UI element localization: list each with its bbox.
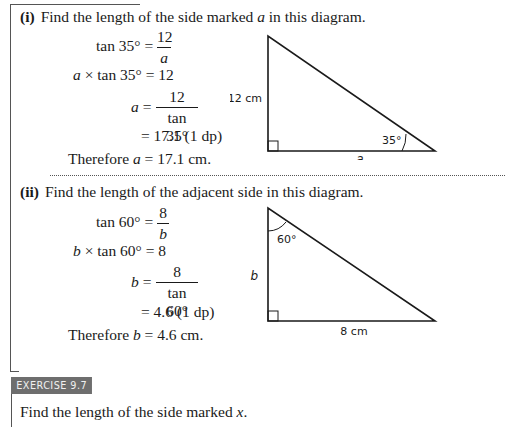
part-ii-step1-lhs: tan 60° =: [96, 213, 153, 231]
text: Therefore: [68, 150, 133, 167]
part-i-step3-lhs: a =: [131, 98, 151, 116]
var: a: [133, 150, 141, 167]
part-ii-step1-fraction: 8 b: [157, 204, 169, 243]
angle-label: 60°: [277, 233, 297, 246]
example-frame-top: [10, 4, 140, 5]
section-divider: [50, 175, 505, 176]
part-i-prompt-text: Find the length of the side marked: [41, 8, 258, 25]
part-i-conclusion: Therefore a = 17.1 cm.: [68, 150, 211, 168]
right-angle-marker: [268, 311, 278, 321]
example-frame-left: [10, 4, 11, 372]
text: = 4.6 cm.: [141, 326, 204, 343]
part-i-prompt-post: in this diagram.: [265, 8, 366, 25]
text: = 17.1 cm.: [141, 150, 211, 167]
text: × tan 60° = 8: [81, 242, 166, 259]
numerator: 12: [157, 28, 171, 46]
side-label-base: 8 cm: [340, 325, 367, 335]
part-ii-heading: (ii)Find the length of the adjacent side…: [20, 183, 363, 201]
text: Therefore: [68, 326, 133, 343]
angle-label: 35°: [382, 134, 402, 147]
part-ii-step4: = 4.6 (1 dp): [141, 303, 214, 321]
text: Find the length of the side marked: [20, 403, 237, 420]
part-ii-label: (ii): [20, 183, 39, 200]
part-i-triangle-diagram: 12 cm a 35°: [230, 30, 450, 160]
part-i-label: (i): [20, 8, 35, 25]
part-i-step1-fraction: 12 a: [157, 28, 171, 67]
equals: =: [139, 273, 152, 290]
var: b: [131, 273, 139, 290]
fraction-bar: [156, 282, 198, 283]
side-label-vertical: b: [250, 269, 258, 283]
denominator: b: [157, 225, 169, 243]
var: b: [133, 326, 141, 343]
part-ii-conclusion: Therefore b = 4.6 cm.: [68, 326, 203, 344]
part-ii-prompt: Find the length of the adjacent side in …: [45, 183, 364, 200]
angle-arc: [402, 134, 406, 151]
part-i-step1-lhs: tan 35° =: [96, 37, 153, 55]
part-ii-triangle-diagram: 60° b 8 cm: [230, 200, 450, 335]
part-ii-step3-lhs: b =: [131, 273, 151, 291]
exercise-frame-left: [11, 394, 12, 427]
fraction-bar: [157, 47, 171, 48]
right-angle-marker: [268, 141, 278, 151]
side-label-base: a: [356, 152, 363, 160]
var: a: [131, 98, 139, 115]
side-label-vertical: 12 cm: [230, 92, 262, 105]
exercise-prompt: Find the length of the side marked x.: [20, 403, 247, 421]
numerator: 12: [156, 88, 198, 106]
equals: =: [139, 98, 152, 115]
var: a: [73, 66, 81, 83]
numerator: 8: [156, 263, 198, 281]
triangle: [268, 208, 435, 321]
part-i-step4: = 17.1 (1 dp): [141, 127, 222, 145]
triangle: [268, 36, 435, 151]
numerator: 8: [157, 204, 169, 222]
var: b: [73, 242, 81, 259]
angle-arc: [268, 222, 286, 231]
fraction-bar: [157, 223, 169, 224]
exercise-badge: EXERCISE 9.7: [11, 377, 92, 394]
part-i-heading: (i)Find the length of the side marked a …: [20, 8, 366, 26]
part-ii-step2: b × tan 60° = 8: [73, 242, 166, 260]
example-frame-foot: [10, 371, 19, 372]
part-i-step2: a × tan 35° = 12: [73, 66, 174, 84]
part-i-prompt-var: a: [257, 8, 265, 25]
text: × tan 35° = 12: [81, 66, 174, 83]
denominator: a: [157, 49, 171, 67]
fraction-bar: [156, 107, 198, 108]
text: .: [243, 403, 247, 420]
